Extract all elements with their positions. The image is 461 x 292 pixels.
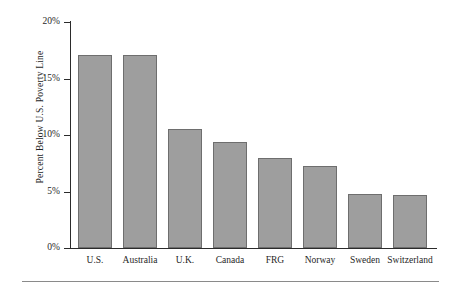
x-tick-label: Switzerland: [370, 256, 450, 266]
bar-chart-figure: Percent Below U.S. Poverty Line 0%5%10%1…: [0, 0, 461, 292]
bar: [393, 195, 427, 248]
y-tick-label: 10%: [24, 130, 60, 140]
y-tick-mark: [64, 248, 70, 249]
bar: [213, 142, 247, 248]
bar-series: [70, 22, 437, 248]
bar: [168, 129, 202, 248]
bar: [348, 194, 382, 248]
bar: [303, 166, 337, 248]
y-tick-label: 5%: [24, 187, 60, 197]
y-tick-label: 0%: [24, 243, 60, 253]
bottom-rule: [22, 281, 439, 282]
y-tick-label: 15%: [24, 74, 60, 84]
bar: [258, 158, 292, 248]
plot-area: [70, 22, 437, 248]
bar: [78, 55, 112, 248]
y-tick-label: 20%: [24, 17, 60, 27]
x-axis-line: [70, 248, 437, 249]
bar: [123, 55, 157, 248]
